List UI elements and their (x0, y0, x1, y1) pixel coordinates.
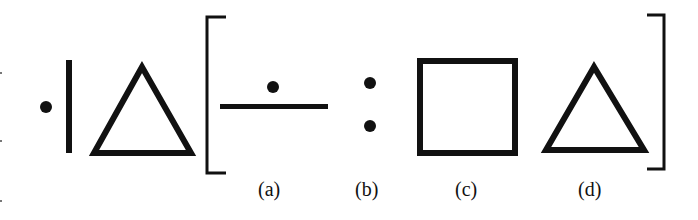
stem-triangle-icon (94, 67, 191, 153)
left-bracket (207, 17, 226, 173)
option-b-label: (b) (355, 178, 378, 201)
stem-dot-icon (40, 101, 52, 113)
option-d-triangle-icon (546, 67, 644, 150)
option-a-line-icon (220, 104, 328, 109)
option-b-bottom-dot-icon (364, 120, 376, 132)
option-a-dot-icon (267, 81, 279, 93)
option-d-label: (d) (578, 178, 601, 201)
option-d[interactable] (546, 67, 644, 150)
option-a-label: (a) (258, 178, 280, 201)
stem-vertical-line-icon (66, 60, 72, 153)
right-bracket (647, 15, 664, 169)
option-b-top-dot-icon (364, 77, 376, 89)
option-c-square-icon (420, 61, 515, 153)
option-a[interactable] (220, 81, 328, 109)
option-b[interactable] (364, 77, 376, 132)
option-c[interactable] (420, 61, 515, 153)
option-c-label: (c) (455, 178, 477, 201)
